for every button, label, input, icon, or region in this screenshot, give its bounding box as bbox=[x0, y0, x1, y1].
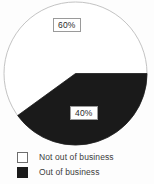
legend-item-not-out-of-business[interactable]: Not out of business bbox=[17, 150, 147, 165]
pie-plot-area: 60% 40% bbox=[0, 0, 154, 148]
legend-item-out-of-business[interactable]: Out of business bbox=[17, 165, 147, 180]
pie-label-out-of-business: 40% bbox=[70, 106, 98, 120]
legend-label-out-of-business: Out of business bbox=[39, 167, 100, 178]
pie-chart-figure: 60% 40% Not out of business Out of busin… bbox=[0, 0, 154, 184]
pie-label-not-out-of-business: 60% bbox=[53, 18, 81, 32]
legend-swatch-not-out-of-business bbox=[17, 152, 28, 163]
legend: Not out of business Out of business bbox=[17, 150, 147, 180]
legend-swatch-out-of-business bbox=[17, 167, 28, 178]
legend-label-not-out-of-business: Not out of business bbox=[39, 152, 114, 163]
